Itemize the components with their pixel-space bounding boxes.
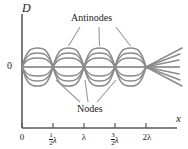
x-tick-label-two-lambda: 2λ bbox=[138, 133, 156, 142]
nodes-annotation-label: Nodes bbox=[77, 104, 103, 114]
antinodes-leader-lines bbox=[69, 27, 131, 46]
y-axis-zero-label: 0 bbox=[7, 61, 12, 71]
standing-wave-figure: D x 0 Antinodes Nodes 0 12λ λ 32λ 2λ bbox=[0, 0, 188, 149]
nodes-leader-right bbox=[97, 80, 116, 102]
antinodes-annotation-label: Antinodes bbox=[71, 13, 112, 23]
x-tick-label-half-lambda: 12λ bbox=[43, 132, 63, 147]
x-axis-label: x bbox=[176, 113, 181, 124]
lambda-symbol: λ bbox=[53, 135, 57, 145]
antinodes-leader-right bbox=[116, 27, 131, 46]
x-tick-label-0: 0 bbox=[14, 133, 30, 142]
lambda-symbol: λ bbox=[115, 135, 119, 145]
antinodes-leader-middle bbox=[99, 27, 100, 46]
nodes-leader-middle bbox=[85, 80, 88, 102]
x-tick-label-lambda: λ bbox=[76, 133, 92, 142]
antinodes-leader-left bbox=[69, 27, 81, 46]
x-tick-label-three-half-lambda: 32λ bbox=[105, 132, 125, 147]
y-axis-label: D bbox=[22, 2, 31, 14]
x-axis-ticks bbox=[22, 123, 146, 128]
